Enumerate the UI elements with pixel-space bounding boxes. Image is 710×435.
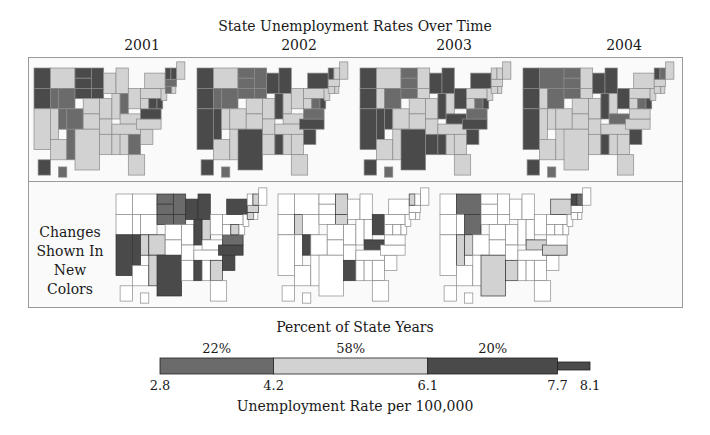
state-in — [120, 94, 128, 114]
state-ct — [328, 86, 335, 93]
state-fl — [128, 155, 144, 175]
state-ia — [173, 214, 185, 224]
state-hi — [548, 167, 556, 177]
state-ia — [417, 88, 429, 98]
state-ok — [246, 114, 262, 129]
state-hi — [222, 167, 230, 177]
state-wi — [267, 73, 279, 93]
state-pa — [385, 214, 406, 224]
state-tx — [564, 129, 589, 170]
state-wy — [222, 88, 238, 108]
state-wy — [548, 88, 564, 108]
state-ks — [327, 225, 343, 240]
state-ia — [91, 88, 103, 98]
state-mo — [506, 225, 518, 245]
state-wi — [186, 199, 198, 219]
state-ok — [165, 240, 181, 255]
state-sc — [223, 255, 235, 270]
state-nv — [456, 235, 464, 266]
state-md — [312, 99, 320, 109]
legend-tick-label: 4.2 — [254, 378, 294, 393]
state-nc — [137, 119, 162, 129]
state-me — [583, 188, 591, 205]
state-nc — [300, 119, 325, 129]
state-pa — [304, 88, 325, 98]
state-in — [526, 220, 534, 240]
state-mn — [497, 194, 509, 214]
state-wy — [303, 214, 319, 234]
state-wa — [523, 68, 539, 88]
state-ar — [589, 119, 601, 134]
state-mt — [456, 194, 481, 214]
state-md — [149, 99, 157, 109]
state-ks — [409, 99, 425, 114]
state-ia — [254, 88, 266, 98]
changes-label-line-1: Changes — [30, 223, 110, 242]
state-ks — [83, 99, 99, 114]
state-va — [385, 235, 406, 245]
state-id — [132, 214, 140, 234]
state-az — [376, 139, 392, 159]
state-la — [426, 134, 438, 154]
state-pa — [141, 88, 162, 98]
state-la — [182, 260, 194, 280]
state-nd — [319, 194, 335, 204]
state-ks — [572, 99, 588, 114]
state-ne — [75, 88, 91, 98]
state-mi — [522, 194, 534, 220]
state-ne — [238, 88, 254, 98]
legend-segment-tail — [558, 362, 590, 370]
map-2004 — [519, 60, 679, 180]
state-or — [278, 214, 294, 234]
legend-percent-medium: 58% — [321, 341, 381, 356]
state-sc — [141, 129, 153, 144]
state-vt — [571, 194, 577, 205]
state-mi — [605, 68, 617, 94]
state-tx — [75, 129, 100, 170]
state-hi — [385, 167, 393, 177]
state-ga — [291, 134, 303, 154]
state-id — [539, 88, 547, 108]
state-ri — [578, 212, 582, 219]
state-nc — [543, 245, 568, 255]
state-oh — [534, 214, 546, 234]
state-mi — [360, 194, 372, 220]
state-ny — [634, 73, 655, 88]
state-mn — [580, 68, 592, 88]
state-oh — [454, 88, 466, 108]
state-la — [263, 134, 275, 154]
state-al — [609, 134, 617, 154]
state-nh — [660, 68, 666, 79]
state-ok — [489, 240, 505, 255]
state-nd — [564, 68, 580, 78]
state-sd — [401, 78, 417, 88]
chart-title: State Unemployment Rates Over Time — [0, 18, 710, 34]
state-wv — [630, 99, 638, 109]
legend-tick-label: 2.8 — [140, 378, 180, 393]
state-wi — [348, 199, 360, 219]
state-sd — [564, 78, 580, 88]
state-ok — [572, 114, 588, 129]
state-nh — [334, 68, 340, 79]
state-fl — [617, 155, 633, 175]
state-oh — [210, 214, 222, 234]
state-az — [213, 139, 229, 159]
state-nv — [539, 109, 547, 140]
state-ca — [523, 109, 539, 150]
state-nv — [294, 235, 302, 266]
state-ut — [385, 109, 393, 129]
state-wv — [385, 225, 393, 235]
state-hi — [465, 293, 473, 303]
state-nv — [213, 109, 221, 140]
state-in — [609, 94, 617, 114]
state-ny — [471, 73, 492, 88]
state-ms — [275, 134, 283, 154]
state-ks — [165, 225, 181, 240]
state-pa — [467, 88, 488, 98]
state-co — [230, 109, 246, 129]
legend-segment-low — [160, 358, 274, 374]
state-co — [556, 109, 572, 129]
state-al — [526, 260, 534, 280]
state-pa — [630, 88, 651, 98]
state-md — [393, 225, 401, 235]
